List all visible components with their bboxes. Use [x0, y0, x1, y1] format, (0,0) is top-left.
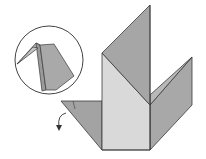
left-flap [61, 101, 102, 150]
diagram-canvas [0, 0, 206, 159]
inset-detail [15, 26, 83, 94]
right-flap [150, 57, 192, 150]
main-model [61, 5, 192, 150]
fold-arrow-icon [56, 113, 66, 131]
origami-diagram [0, 0, 206, 159]
